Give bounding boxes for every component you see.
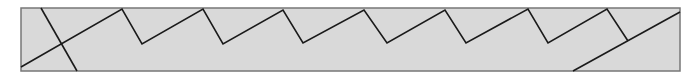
zigzag-diagram: [0, 0, 695, 77]
